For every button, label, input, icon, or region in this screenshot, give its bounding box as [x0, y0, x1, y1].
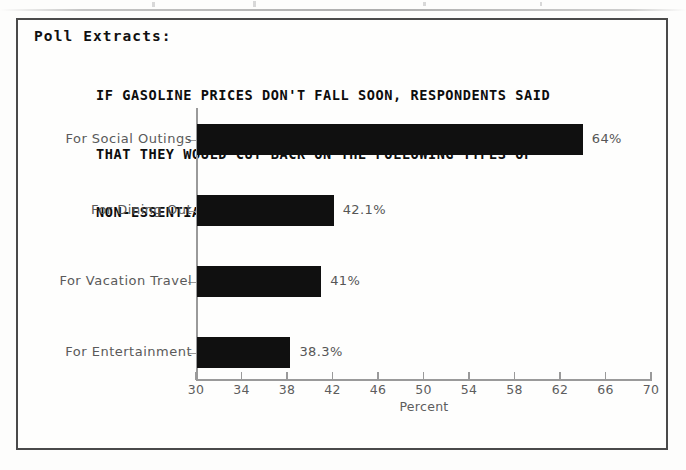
bar-category-label: For Social Outings — [65, 131, 192, 146]
bar-category-label: For Dining Out — [91, 202, 192, 217]
x-axis-tick — [377, 372, 378, 380]
bar-chart-plot-area: 3034384246505458626670 Percent For Socia… — [0, 0, 686, 470]
bar-value-label: 42.1% — [343, 202, 386, 217]
bar-value-label: 38.3% — [299, 344, 342, 359]
x-axis-tick-label: 30 — [188, 382, 205, 397]
screenshot-root: Poll Extracts: IF GASOLINE PRICES DON'T … — [0, 0, 686, 470]
bar-rect[interactable] — [197, 195, 334, 226]
bar-category-label: For Entertainment — [65, 344, 192, 359]
x-axis-tick-label: 46 — [370, 382, 387, 397]
bar-value-label: 64% — [592, 131, 622, 146]
x-axis-tick — [559, 372, 560, 380]
bar-category-label: For Vacation Travel — [59, 273, 192, 288]
x-axis-tick — [195, 372, 196, 380]
bar-value-label: 41% — [330, 273, 360, 288]
x-axis-tick — [514, 372, 515, 380]
x-axis-tick — [423, 372, 424, 380]
x-axis-tick — [468, 372, 469, 380]
x-axis-tick-label: 54 — [461, 382, 478, 397]
x-axis-tick — [286, 372, 287, 380]
x-axis-tick-label: 66 — [597, 382, 614, 397]
x-axis-title: Percent — [399, 399, 448, 414]
x-axis-tick-label: 34 — [233, 382, 250, 397]
x-axis-tick-label: 62 — [552, 382, 569, 397]
x-axis-tick-label: 70 — [643, 382, 660, 397]
bar-rect[interactable] — [197, 124, 583, 155]
x-axis-tick — [605, 372, 606, 380]
x-axis-tick-label: 38 — [279, 382, 296, 397]
x-axis-tick — [650, 372, 651, 380]
x-axis-tick-label: 42 — [324, 382, 341, 397]
x-axis-tick — [241, 372, 242, 380]
bar-rect[interactable] — [197, 266, 321, 297]
bar-rect[interactable] — [197, 337, 290, 368]
x-axis-tick — [332, 372, 333, 380]
x-axis-tick-label: 58 — [506, 382, 523, 397]
x-axis-tick-label: 50 — [415, 382, 432, 397]
